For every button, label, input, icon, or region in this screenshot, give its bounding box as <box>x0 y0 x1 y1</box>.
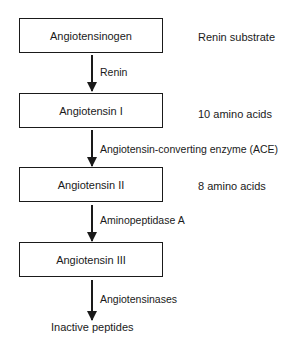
node-label: Angiotensinogen <box>50 30 132 42</box>
arrow-down-icon <box>91 55 93 91</box>
edge-label-angiotensinases: Angiotensinases <box>100 293 177 306</box>
arrow-down-icon <box>91 130 93 166</box>
node-label: Angiotensin III <box>56 254 126 266</box>
node-label: Angiotensin I <box>59 105 123 117</box>
node-angiotensin-ii: Angiotensin II <box>19 167 163 202</box>
node-angiotensinogen: Angiotensinogen <box>19 18 163 53</box>
node-angiotensin-iii: Angiotensin III <box>19 242 163 277</box>
edge-label-renin: Renin <box>100 66 127 79</box>
annotation-renin-substrate: Renin substrate <box>198 31 275 44</box>
edge-label-ace: Angiotensin-converting enzyme (ACE) <box>100 143 278 156</box>
terminal-inactive-peptides: Inactive peptides <box>51 321 134 333</box>
edge-label-aminopeptidase-a: Aminopeptidase A <box>100 214 185 227</box>
annotation-10-amino-acids: 10 amino acids <box>198 108 272 121</box>
arrow-down-icon <box>91 280 93 320</box>
node-angiotensin-i: Angiotensin I <box>19 93 163 128</box>
node-label: Angiotensin II <box>58 179 125 191</box>
arrow-down-icon <box>91 205 93 241</box>
annotation-8-amino-acids: 8 amino acids <box>198 180 266 193</box>
